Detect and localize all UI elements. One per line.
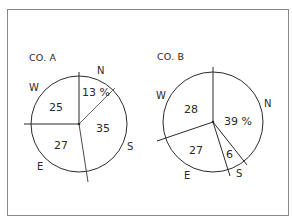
pie-chart-co-a: CO. A 13 % 35 27 25 N S E W bbox=[24, 52, 133, 182]
pie-charts-canvas: CO. A 13 % 35 27 25 N S E W CO. B 39 % 6… bbox=[0, 0, 292, 218]
direction-label-w: W bbox=[156, 90, 166, 101]
chart-title-co-a: CO. A bbox=[29, 52, 57, 63]
direction-label-e: E bbox=[37, 161, 43, 172]
direction-label-s: S bbox=[236, 168, 242, 179]
pie-center-dot bbox=[78, 123, 81, 126]
chart-title-co-b: CO. B bbox=[157, 51, 184, 62]
pie-chart-co-b: CO. B 39 % 6 27 28 N S E W bbox=[156, 51, 271, 181]
direction-label-n: N bbox=[97, 65, 104, 76]
direction-label-w: W bbox=[29, 82, 39, 93]
direction-label-e: E bbox=[184, 170, 190, 181]
slice-label-n: 39 % bbox=[224, 115, 252, 128]
slice-label-e: 27 bbox=[54, 139, 68, 152]
slice-label-w: 28 bbox=[184, 103, 198, 116]
divider-line bbox=[157, 122, 213, 141]
divider-line bbox=[79, 124, 88, 182]
pie-center-dot bbox=[212, 121, 215, 124]
slice-label-n: 13 % bbox=[82, 86, 110, 99]
direction-label-s: S bbox=[127, 141, 133, 152]
slice-label-s: 6 bbox=[226, 148, 233, 161]
slice-label-s: 35 bbox=[96, 122, 110, 135]
slice-label-e: 27 bbox=[189, 144, 203, 157]
slice-label-w: 25 bbox=[49, 101, 63, 114]
direction-label-n: N bbox=[264, 98, 271, 109]
